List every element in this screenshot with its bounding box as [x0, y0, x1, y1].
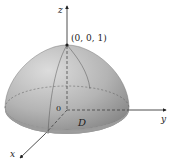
apex-point — [65, 43, 68, 46]
apex-point-label: (0, 0, 1) — [71, 33, 107, 43]
paraboloid-figure: z (0, 0, 1) 0 D y x — [0, 0, 171, 165]
x-axis-label: x — [10, 149, 15, 159]
region-d-label: D — [77, 117, 86, 128]
y-axis-label: y — [160, 114, 167, 124]
x-axis — [20, 134, 45, 158]
origin-label: 0 — [56, 104, 61, 113]
z-axis-label: z — [57, 5, 63, 15]
